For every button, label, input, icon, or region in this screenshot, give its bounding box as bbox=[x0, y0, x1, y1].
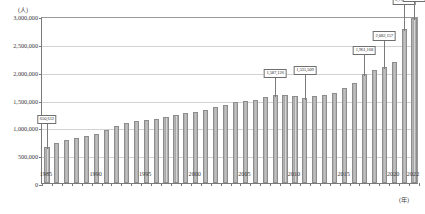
x-axis-tick bbox=[310, 183, 311, 186]
y-axis-label: 0 bbox=[35, 181, 38, 188]
bar-fill bbox=[273, 95, 278, 183]
bar-fill bbox=[203, 110, 208, 183]
bar-fill bbox=[312, 96, 317, 183]
x-axis-tick bbox=[62, 183, 63, 186]
x-axis-tick bbox=[270, 183, 271, 186]
y-axis-label: 1,000,000 bbox=[13, 125, 38, 132]
bar-fill bbox=[173, 115, 178, 183]
bar[interactable] bbox=[253, 100, 258, 184]
bar[interactable] bbox=[173, 115, 178, 183]
x-axis-tick bbox=[201, 183, 202, 186]
x-axis-label: 2015 bbox=[337, 170, 349, 177]
bar-fill bbox=[64, 140, 69, 183]
x-axis-unit-label: (年) bbox=[399, 195, 409, 204]
bar[interactable] bbox=[322, 95, 327, 183]
bar-fill bbox=[382, 67, 387, 183]
y-axis-label: 2,000,000 bbox=[13, 69, 38, 76]
x-axis-label: 2022 bbox=[407, 170, 419, 177]
x-axis-tick bbox=[221, 183, 222, 186]
bar[interactable] bbox=[352, 83, 357, 183]
x-axis-tick bbox=[181, 183, 182, 186]
x-axis-tick bbox=[340, 183, 341, 186]
value-callout: 1,961,168 bbox=[353, 46, 376, 55]
callout-leader-line bbox=[414, 0, 415, 20]
x-axis-tick bbox=[111, 183, 112, 186]
x-axis-tick bbox=[240, 183, 241, 186]
x-axis-tick bbox=[350, 183, 351, 186]
bar[interactable] bbox=[163, 117, 168, 183]
callout-leader-line bbox=[47, 123, 48, 149]
x-axis-tick bbox=[409, 183, 410, 186]
x-axis-tick bbox=[231, 183, 232, 186]
bar[interactable] bbox=[362, 74, 367, 183]
x-axis-tick bbox=[290, 183, 291, 186]
x-axis-tick bbox=[389, 183, 390, 186]
bar-fill bbox=[223, 105, 228, 183]
bar[interactable] bbox=[411, 18, 416, 183]
bar[interactable] bbox=[64, 140, 69, 183]
x-axis-label: 1990 bbox=[89, 170, 101, 177]
bar[interactable] bbox=[312, 96, 317, 183]
y-axis-label: 500,000 bbox=[18, 153, 38, 160]
x-axis-label: 1985 bbox=[40, 170, 52, 177]
x-axis-tick bbox=[82, 183, 83, 186]
x-axis-tick bbox=[42, 183, 43, 186]
bar-fill bbox=[44, 147, 49, 183]
x-axis-tick bbox=[171, 183, 172, 186]
callout-leader-line bbox=[404, 3, 405, 31]
x-axis-tick bbox=[191, 183, 192, 186]
y-axis-label: 1,500,000 bbox=[13, 97, 38, 104]
bar[interactable] bbox=[203, 110, 208, 183]
bar[interactable] bbox=[213, 107, 218, 183]
x-axis-tick bbox=[300, 183, 301, 186]
bar[interactable] bbox=[104, 130, 109, 183]
value-callout: 1,587,126 bbox=[264, 69, 287, 78]
bar-fill bbox=[342, 88, 347, 183]
value-callout: 1,535,509 bbox=[294, 66, 317, 75]
bar-fill bbox=[263, 97, 268, 183]
bar[interactable] bbox=[114, 126, 119, 183]
bar[interactable] bbox=[402, 29, 407, 183]
callout-leader-line bbox=[305, 74, 306, 100]
bar[interactable] bbox=[302, 98, 307, 183]
bar[interactable] bbox=[74, 138, 79, 183]
bar-fill bbox=[352, 83, 357, 183]
bar-fill bbox=[54, 143, 59, 183]
x-axis-tick bbox=[102, 183, 103, 186]
x-axis-tick bbox=[161, 183, 162, 186]
bar[interactable] bbox=[382, 67, 387, 183]
x-axis-label: 2000 bbox=[189, 170, 201, 177]
bar-fill bbox=[74, 138, 79, 183]
bar-fill bbox=[392, 62, 397, 183]
bar[interactable] bbox=[273, 95, 278, 183]
bar[interactable] bbox=[154, 119, 159, 183]
x-axis-tick bbox=[419, 183, 420, 186]
bar-fill bbox=[302, 98, 307, 183]
x-axis-label: 1995 bbox=[139, 170, 151, 177]
bar[interactable] bbox=[372, 70, 377, 183]
value-callout: 650,612 bbox=[37, 115, 56, 124]
x-axis-tick bbox=[92, 183, 93, 186]
bar-fill bbox=[253, 100, 258, 184]
x-axis-tick bbox=[369, 183, 370, 186]
bar-fill bbox=[411, 18, 416, 183]
bar-series bbox=[42, 18, 417, 183]
x-axis-tick bbox=[260, 183, 261, 186]
bar[interactable] bbox=[223, 105, 228, 183]
bar[interactable] bbox=[263, 97, 268, 183]
plot-area: 650,6121,587,1261,535,5091,961,1682,082,… bbox=[41, 17, 418, 184]
bar[interactable] bbox=[54, 143, 59, 183]
bar-fill bbox=[372, 70, 377, 183]
bar-fill bbox=[104, 130, 109, 183]
bar-fill bbox=[124, 123, 129, 183]
x-axis-tick bbox=[121, 183, 122, 186]
x-axis-tick bbox=[359, 183, 360, 186]
bar[interactable] bbox=[392, 62, 397, 183]
x-axis-tick bbox=[131, 183, 132, 186]
x-axis-tick bbox=[72, 183, 73, 186]
chart-root: (人) (年) 650,6121,587,1261,535,5091,961,1… bbox=[0, 0, 425, 214]
bar[interactable] bbox=[124, 123, 129, 183]
x-axis-tick bbox=[250, 183, 251, 186]
bar[interactable] bbox=[342, 88, 347, 183]
bar[interactable] bbox=[44, 147, 49, 183]
